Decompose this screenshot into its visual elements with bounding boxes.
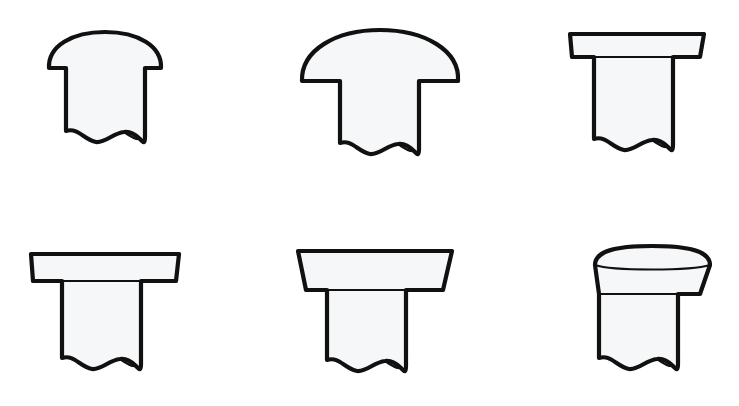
fastener-outline-1 bbox=[49, 32, 161, 142]
fastener-figure-round-head bbox=[49, 32, 161, 142]
fastener-head-diagram bbox=[0, 0, 739, 406]
